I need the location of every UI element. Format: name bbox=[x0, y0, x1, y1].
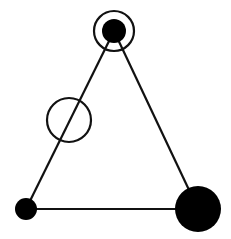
top-node bbox=[102, 19, 126, 43]
edges bbox=[26, 31, 198, 209]
edge-top-bottom-left bbox=[26, 31, 114, 209]
triangle-diagram bbox=[0, 0, 231, 239]
bottom-right-node bbox=[175, 186, 221, 232]
bottom-left-node bbox=[15, 198, 37, 220]
edge-top-bottom-right bbox=[114, 31, 198, 209]
